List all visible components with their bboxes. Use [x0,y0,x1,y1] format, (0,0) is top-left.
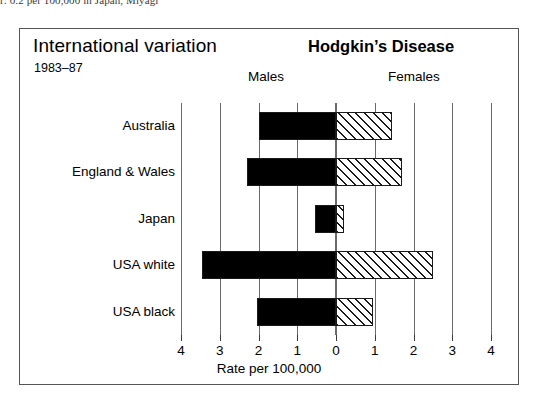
chart-subtitle-years: 1983–87 [34,61,83,75]
x-tick-mark [414,335,415,341]
category-label: USA black [113,304,175,319]
x-tick-label: 1 [363,343,387,358]
page-caption-text: r: 0.2 per 100,000 in Japan, Miyagi [0,0,300,8]
bar-female [336,158,402,186]
x-tick-mark [259,335,260,341]
bar-row [181,196,491,242]
x-tick-mark [375,335,376,341]
category-axis-labels: AustraliaEngland & WalesJapanUSA whiteUS… [20,103,175,335]
bar-female [336,205,344,233]
category-label: Japan [138,211,175,226]
bar-male [202,251,336,279]
panel-header-males: Males [248,69,284,84]
x-tick-mark [491,335,492,341]
bar-row [181,242,491,288]
x-tick-mark [452,335,453,341]
x-axis-title: Rate per 100,000 [20,361,518,376]
bar-row [181,289,491,335]
bar-male [259,112,337,140]
x-tick-label: 2 [402,343,426,358]
x-tick-mark [181,335,182,341]
x-axis: 432101234 [181,335,491,355]
x-tick-label: 0 [324,343,348,358]
plot-area [181,103,491,335]
bar-female [336,298,373,326]
bar-male [257,298,336,326]
panel-header-females: Females [388,69,440,84]
category-label: USA white [113,257,175,272]
x-tick-mark [297,335,298,341]
x-tick-label: 4 [169,343,193,358]
x-tick-label: 4 [479,343,503,358]
figure-frame: International variation 1983–87 Hodgkin’… [19,28,519,385]
x-tick-mark [336,335,337,341]
bar-male [247,158,336,186]
bar-row [181,149,491,195]
x-tick-label: 1 [285,343,309,358]
gridline-8 [491,103,492,335]
chart-title-right: Hodgkin’s Disease [308,37,454,56]
category-label: England & Wales [72,164,175,179]
bar-male [315,205,336,233]
bar-female [336,251,433,279]
chart-title-left: International variation [33,35,217,57]
x-tick-label: 3 [440,343,464,358]
x-tick-mark [220,335,221,341]
bar-row [181,103,491,149]
x-tick-label: 3 [208,343,232,358]
bar-female [336,112,392,140]
x-tick-label: 2 [247,343,271,358]
category-label: Australia [122,118,175,133]
